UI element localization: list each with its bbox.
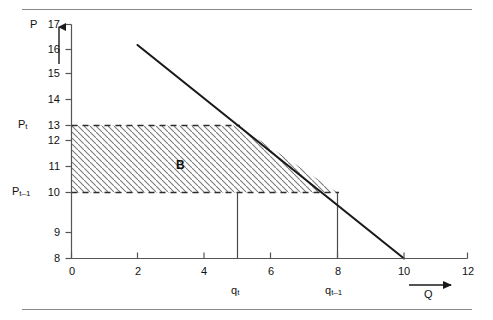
price-label-pt-1: Pt–1 — [12, 186, 30, 198]
x-axis-ticks — [72, 253, 468, 259]
x-tick-label-8: 8 — [328, 266, 348, 277]
y-tick-label-15: 15 — [44, 68, 60, 79]
x-tick-label-2: 2 — [128, 266, 148, 277]
price-label-pt-1-sub: t–1 — [19, 189, 30, 198]
x-axis-label: Q — [424, 289, 433, 300]
y-tick-label-8: 8 — [44, 253, 60, 264]
y-tick-label-12: 12 — [44, 135, 60, 146]
quantity-label-qt: qt — [231, 285, 239, 297]
y-tick-label-16: 16 — [44, 44, 60, 55]
y-axis-ticks — [66, 25, 72, 259]
x-tick-label-0: 0 — [62, 266, 82, 277]
x-tick-label-4: 4 — [194, 266, 214, 277]
y-tick-label-11: 11 — [44, 161, 60, 172]
price-label-pt: Pt — [18, 119, 28, 131]
quantity-label-qt-1-sub: t–1 — [331, 288, 342, 297]
y-tick-label-9: 9 — [44, 227, 60, 238]
x-tick-label-6: 6 — [261, 266, 281, 277]
price-label-pt-sub: t — [25, 122, 27, 131]
y-tick-label-10: 10 — [44, 187, 60, 198]
x-tick-label-12: 12 — [458, 266, 478, 277]
quantity-label-qt-sub: t — [237, 288, 239, 297]
figure-container: 17 16 15 14 13 12 11 10 9 8 0 2 4 6 8 10… — [0, 0, 493, 320]
y-axis-label: P — [30, 19, 37, 30]
x-tick-label-10: 10 — [394, 266, 414, 277]
y-tick-label-14: 14 — [44, 94, 60, 105]
y-tick-label-17: 17 — [44, 19, 60, 30]
region-label-B: B — [176, 159, 185, 171]
y-tick-label-13: 13 — [44, 120, 60, 131]
region-B-shape — [72, 126, 338, 193]
quantity-label-qt-1: qt–1 — [325, 285, 342, 297]
